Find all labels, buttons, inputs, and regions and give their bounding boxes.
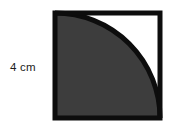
square-with-quarter-circle-svg [0,0,175,129]
geometry-figure: 4 cm [0,0,175,129]
